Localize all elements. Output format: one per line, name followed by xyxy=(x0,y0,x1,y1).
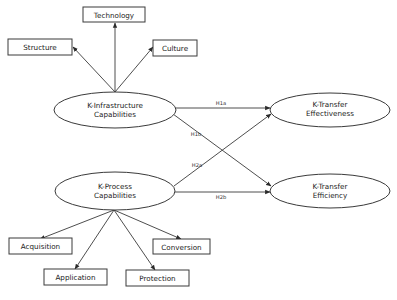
box-conversion: Conversion xyxy=(153,239,210,254)
k-process-line1: K-Process xyxy=(98,182,132,191)
construct-k-infrastructure: K-Infrastructure Capabilities xyxy=(54,92,176,128)
construct-k-process: K-Process Capabilities xyxy=(55,172,175,210)
label-h1a: H1a xyxy=(216,100,226,106)
acquisition-label: Acquisition xyxy=(21,242,60,251)
conversion-label: Conversion xyxy=(161,243,201,252)
k-transfer-effectiveness-line2: Effectiveness xyxy=(306,109,354,118)
k-process-line2: Capabilities xyxy=(94,191,136,200)
label-h2b: H2b xyxy=(216,194,227,200)
protection-label: Protection xyxy=(139,274,175,283)
box-structure: Structure xyxy=(8,39,72,55)
k-transfer-efficiency-line1: K-Transfer xyxy=(313,182,348,191)
k-transfer-effectiveness-line1: K-Transfer xyxy=(313,100,348,109)
structure-label: Structure xyxy=(23,43,57,52)
k-infrastructure-line2: Capabilities xyxy=(94,110,136,119)
edge-infrastructure-culture xyxy=(115,47,153,92)
box-acquisition: Acquisition xyxy=(9,238,72,254)
k-transfer-efficiency-line2: Efficiency xyxy=(313,191,348,200)
box-application: Application xyxy=(44,269,107,285)
edge-process-acquisition xyxy=(40,210,114,239)
box-culture: Culture xyxy=(153,40,197,56)
construct-k-transfer-efficiency: K-Transfer Efficiency xyxy=(270,174,390,208)
edge-process-application xyxy=(75,210,114,269)
box-technology: Technology xyxy=(83,7,145,22)
application-label: Application xyxy=(55,273,95,282)
culture-label: Culture xyxy=(162,44,189,53)
construct-k-transfer-effectiveness: K-Transfer Effectiveness xyxy=(270,93,390,127)
technology-label: Technology xyxy=(93,11,135,20)
research-model-diagram: H1a H1b H2a H2b Technology Structure Cul… xyxy=(0,0,397,300)
box-protection: Protection xyxy=(126,270,189,286)
label-h2a: H2a xyxy=(192,162,202,168)
edge-infrastructure-structure xyxy=(73,47,115,92)
k-infrastructure-line1: K-Infrastructure xyxy=(87,101,143,110)
label-h1b: H1b xyxy=(191,131,202,137)
